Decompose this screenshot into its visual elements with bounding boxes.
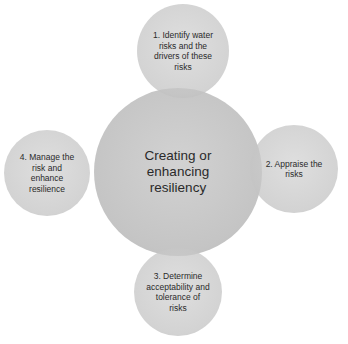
step-3-circle: 3. Determine acceptability and tolerance… [134, 248, 222, 336]
step-1-label: 1. Identify water risks and the drivers … [146, 30, 220, 72]
step-1-circle: 1. Identify water risks and the drivers … [137, 4, 229, 98]
step-4-circle: 4. Manage the risk and enhance resilienc… [4, 130, 90, 216]
step-2-circle: 2. Appraise the risks [250, 125, 338, 213]
center-circle: Creating or enhancing resiliency [94, 88, 262, 256]
step-2-label: 2. Appraise the risks [259, 159, 329, 180]
resiliency-cycle-diagram: Creating or enhancing resiliency 1. Iden… [0, 0, 348, 344]
step-3-label: 3. Determine acceptability and tolerance… [140, 271, 216, 313]
center-label: Creating or enhancing resiliency [122, 148, 234, 196]
step-4-label: 4. Manage the risk and enhance resilienc… [9, 152, 85, 194]
